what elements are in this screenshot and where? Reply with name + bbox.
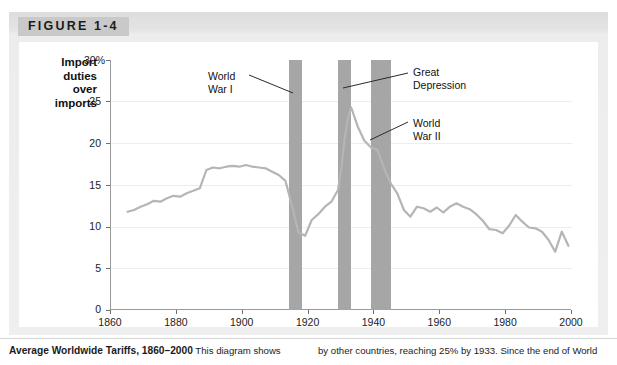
annotation-world-war-i: World War I [208, 70, 235, 95]
tariff-line-chart: Importdutiesoverimports 30% 25 20 15 10 … [19, 42, 598, 327]
x-tick-label-1920: 1920 [288, 316, 328, 328]
y-tick-label-5: 5 [71, 262, 101, 274]
figure-number-tab: FIGURE 1-4 [18, 17, 129, 36]
shaded-band-world-war-i [289, 60, 302, 310]
y-tick-label-20: 20 [71, 137, 101, 149]
x-tick-mark-1960 [439, 310, 440, 314]
caption-left-column: Average Worldwide Tariffs, 1860–2000 Thi… [9, 345, 309, 357]
x-tick-mark-1860 [110, 310, 111, 314]
y-tick-label-30: 30% [71, 54, 105, 66]
x-tick-label-1980: 1980 [485, 316, 525, 328]
chart-panel: Importdutiesoverimports 30% 25 20 15 10 … [19, 42, 598, 327]
x-tick-mark-1900 [242, 310, 243, 314]
caption-title: Average Worldwide Tariffs, 1860–2000 [9, 345, 193, 356]
plot-area [110, 60, 571, 310]
x-tick-label-1960: 1960 [419, 316, 459, 328]
x-tick-mark-1980 [505, 310, 506, 314]
x-tick-label-1940: 1940 [353, 316, 393, 328]
caption-right-column: by other countries, reaching 25% by 1933… [318, 345, 613, 357]
y-tick-label-25: 25 [71, 95, 101, 107]
caption-divider [0, 338, 617, 339]
shaded-band-great-depression [338, 60, 351, 310]
annotation-great-depression: Great Depression [413, 66, 466, 91]
y-axis-title-text-2: duties [63, 70, 97, 82]
x-tick-mark-1940 [373, 310, 374, 314]
y-axis-title-text-3: over [73, 83, 97, 95]
y-tick-label-15: 15 [71, 179, 101, 191]
x-tick-mark-1880 [176, 310, 177, 314]
x-tick-label-1880: 1880 [156, 316, 196, 328]
annotation-world-war-ii: World War II [413, 117, 441, 142]
shaded-band-world-war-ii [371, 60, 391, 310]
x-tick-label-1900: 1900 [222, 316, 262, 328]
y-tick-label-10: 10 [71, 220, 101, 232]
x-tick-mark-2000 [571, 310, 572, 314]
x-tick-label-2000: 2000 [551, 316, 591, 328]
x-tick-mark-1920 [308, 310, 309, 314]
y-tick-label-0: 0 [71, 303, 101, 315]
x-tick-label-1860: 1860 [90, 316, 130, 328]
figure-container: FIGURE 1-4 Importdutiesoverimports 30% 2… [0, 0, 617, 365]
caption-left-text: This diagram shows [195, 345, 280, 356]
figure-caption: Average Worldwide Tariffs, 1860–2000 Thi… [0, 341, 617, 365]
